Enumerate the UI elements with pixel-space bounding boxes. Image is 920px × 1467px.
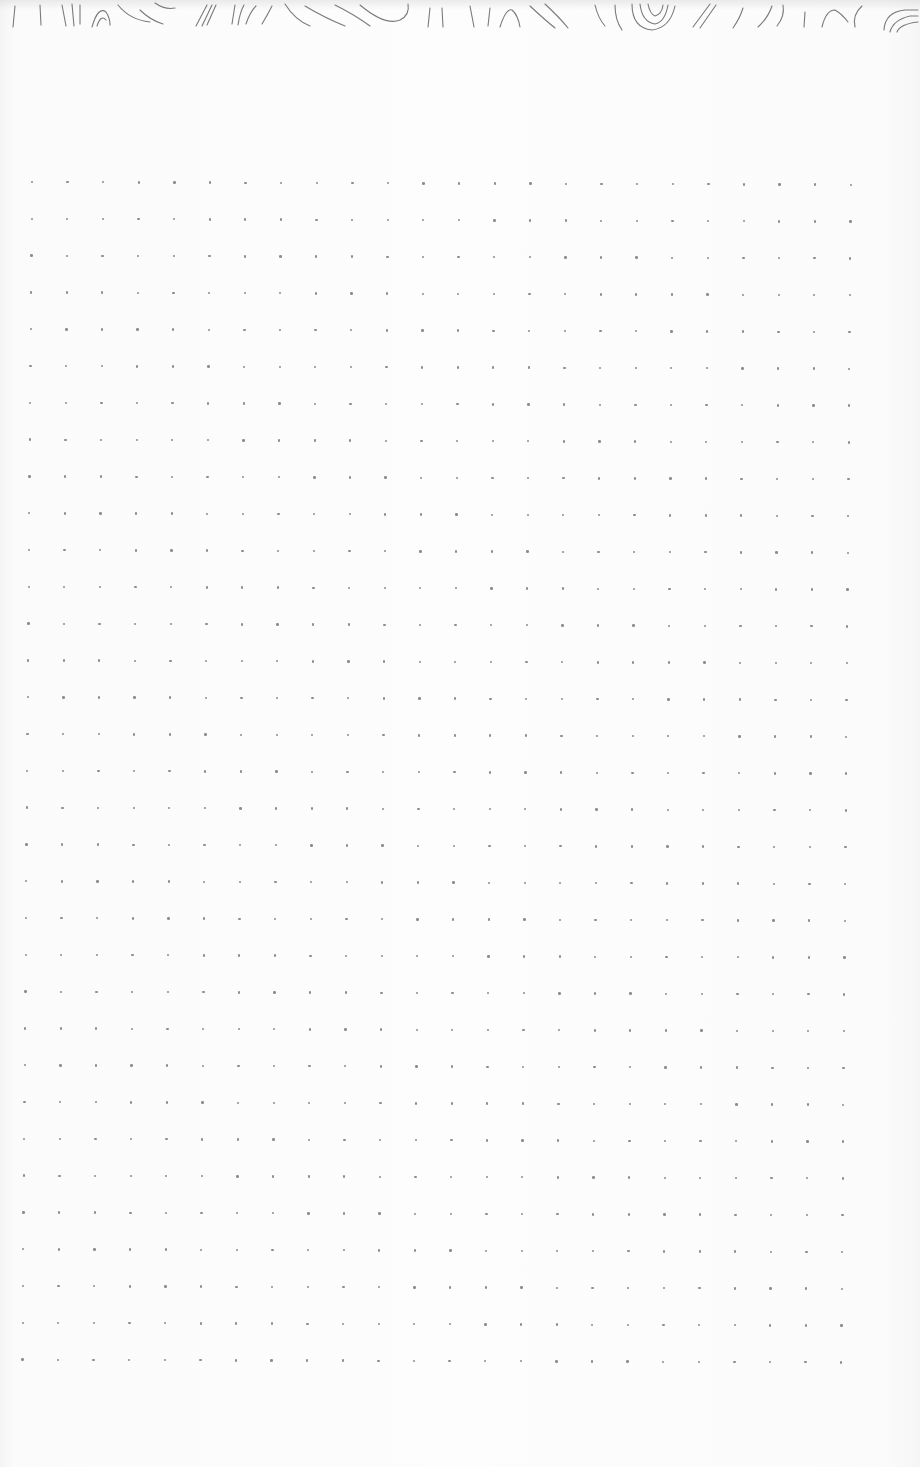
grid-dot xyxy=(668,661,670,663)
grid-dot xyxy=(493,256,495,258)
grid-dot xyxy=(668,625,670,627)
grid-dot xyxy=(702,809,704,811)
grid-dot xyxy=(596,772,598,774)
grid-dot xyxy=(527,440,529,442)
grid-dot xyxy=(137,255,139,257)
grid-dot xyxy=(315,219,317,221)
grid-dot xyxy=(308,1139,310,1141)
grid-dot xyxy=(845,736,847,738)
grid-dot xyxy=(100,402,102,404)
grid-dot xyxy=(597,661,599,663)
grid-dot xyxy=(135,549,137,551)
grid-dot xyxy=(455,513,457,515)
grid-dot xyxy=(102,218,104,220)
grid-dot xyxy=(21,1358,23,1360)
grid-dot xyxy=(31,181,33,183)
grid-dot xyxy=(486,1102,488,1104)
grid-dot xyxy=(450,1213,452,1215)
grid-dot xyxy=(565,219,567,221)
grid-dot xyxy=(62,770,64,772)
grid-dot xyxy=(491,550,493,552)
grid-dot xyxy=(740,588,742,590)
grid-dot xyxy=(810,625,812,627)
grid-dot xyxy=(313,550,315,552)
grid-dot xyxy=(23,1174,25,1176)
grid-dot xyxy=(169,660,171,662)
grid-dot xyxy=(520,1286,522,1288)
grid-dot xyxy=(663,1250,665,1252)
grid-dot xyxy=(377,1360,379,1362)
grid-dot xyxy=(61,843,63,845)
grid-dot xyxy=(702,772,704,774)
grid-dot xyxy=(63,623,65,625)
grid-dot xyxy=(739,625,741,627)
grid-dot xyxy=(559,845,561,847)
grid-dot xyxy=(671,257,673,259)
grid-dot xyxy=(524,808,526,810)
grid-dot xyxy=(596,735,598,737)
grid-dot xyxy=(740,478,742,480)
grid-dot xyxy=(741,441,743,443)
grid-dot xyxy=(30,291,32,293)
grid-dot xyxy=(242,476,244,478)
grid-dot xyxy=(520,1360,522,1362)
grid-dot xyxy=(454,734,456,736)
grid-dot xyxy=(308,1175,310,1177)
grid-dot xyxy=(349,513,351,515)
grid-dot xyxy=(275,770,277,772)
grid-dot xyxy=(776,515,778,517)
grid-dot xyxy=(241,660,243,662)
grid-dot xyxy=(26,770,28,772)
grid-dot xyxy=(92,1359,94,1361)
grid-dot xyxy=(237,1102,239,1104)
grid-dot xyxy=(348,587,350,589)
grid-dot xyxy=(30,254,32,256)
grid-dot xyxy=(312,660,314,662)
grid-dot xyxy=(703,735,705,737)
grid-dot xyxy=(775,551,777,553)
grid-dot xyxy=(556,1323,558,1325)
grid-dot xyxy=(600,220,602,222)
grid-dot xyxy=(776,441,778,443)
grid-dot xyxy=(279,366,281,368)
grid-dot xyxy=(775,588,777,590)
grid-dot xyxy=(529,219,531,221)
grid-dot xyxy=(421,403,423,405)
grid-dot xyxy=(235,1286,237,1288)
grid-dot xyxy=(164,1359,166,1361)
grid-dot xyxy=(380,1028,382,1030)
grid-dot xyxy=(778,183,780,185)
grid-dot xyxy=(635,293,637,295)
grid-dot xyxy=(100,475,102,477)
grid-dot xyxy=(172,365,174,367)
grid-dot xyxy=(169,733,171,735)
grid-dot xyxy=(564,330,566,332)
grid-dot xyxy=(670,367,672,369)
grid-dot xyxy=(810,662,812,664)
grid-dot xyxy=(523,992,525,994)
grid-dot xyxy=(416,992,418,994)
grid-dot xyxy=(348,550,350,552)
grid-dot xyxy=(636,220,638,222)
grid-dot xyxy=(93,1322,95,1324)
grid-dot xyxy=(559,919,561,921)
grid-dot xyxy=(809,772,811,774)
grid-dot xyxy=(848,368,850,370)
grid-dot xyxy=(525,661,527,663)
grid-dot xyxy=(23,1138,25,1140)
grid-dot xyxy=(667,698,669,700)
grid-dot xyxy=(343,1212,345,1214)
grid-dot xyxy=(560,771,562,773)
grid-dot xyxy=(698,1324,700,1326)
grid-dot xyxy=(628,1176,630,1178)
grid-dot xyxy=(564,256,566,258)
grid-dot xyxy=(280,218,282,220)
grid-dot xyxy=(204,807,206,809)
grid-dot xyxy=(94,1175,96,1177)
grid-dot xyxy=(350,329,352,331)
grid-dot xyxy=(200,1212,202,1214)
grid-dot xyxy=(529,182,531,184)
grid-dot xyxy=(665,1029,667,1031)
grid-dot xyxy=(346,771,348,773)
grid-dot xyxy=(591,1360,593,1362)
